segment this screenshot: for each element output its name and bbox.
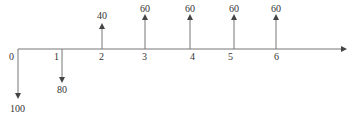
period-label-1: 1 (54, 51, 59, 62)
cash-flow-value-6: 60 (271, 3, 281, 14)
period-label-0: 0 (9, 51, 14, 62)
period-label-5: 5 (228, 51, 233, 62)
cash-flow-value-1: 80 (57, 84, 67, 95)
cash-flow-value-0: 100 (10, 103, 25, 114)
cash-flow-diagram: 0 1 2 3 4 5 6 100 80 40 60 60 60 60 (0, 0, 356, 122)
cash-flow-value-2: 40 (97, 10, 107, 21)
cash-flow-value-3: 60 (140, 3, 150, 14)
period-label-3: 3 (142, 51, 147, 62)
cash-flow-value-5: 60 (229, 3, 239, 14)
cash-flow-value-4: 60 (185, 3, 195, 14)
period-label-6: 6 (274, 51, 279, 62)
period-label-4: 4 (190, 51, 195, 62)
period-label-2: 2 (99, 51, 104, 62)
